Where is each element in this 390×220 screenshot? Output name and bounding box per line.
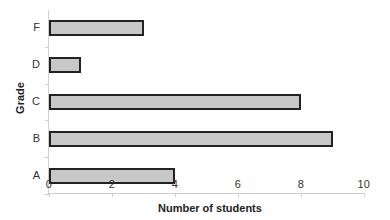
category-label-f: F [26,21,40,33]
bar-c [49,94,301,110]
x-tick-label: 4 [172,178,178,190]
bar-f [49,20,144,36]
x-axis-title: Number of students [158,202,262,214]
x-tick [175,193,176,197]
category-label-c: C [26,95,40,107]
x-tick [238,193,239,197]
bar-d [49,57,81,73]
y-tick [45,120,49,121]
x-tick-label: 6 [235,178,241,190]
category-label-b: B [26,132,40,144]
y-axis-title: Grade [14,78,26,118]
x-tick-label: 0 [46,178,52,190]
category-label-a: A [26,169,40,181]
x-tick [301,193,302,197]
bar-b [49,131,333,147]
y-tick [45,47,49,48]
bar-chart: ABCDF 0246810 Number of students Grade [0,0,390,220]
category-label-d: D [26,58,40,70]
y-tick [45,84,49,85]
x-tick [49,193,50,197]
y-tick [45,194,49,195]
y-tick [45,157,49,158]
x-tick [112,193,113,197]
x-tick-label: 8 [298,178,304,190]
x-tick-label: 10 [358,178,370,190]
x-tick-label: 2 [109,178,115,190]
x-tick [364,193,365,197]
x-axis-line [48,193,365,194]
